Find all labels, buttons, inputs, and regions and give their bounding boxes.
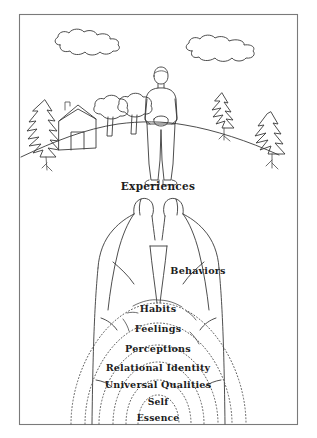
iceberg-layers-illustration: Experiences Behaviors Habits Feelings Pe… [0, 0, 317, 438]
label-feelings: Feelings [135, 323, 181, 334]
label-experiences: Experiences [121, 180, 195, 192]
label-habits: Habits [140, 303, 177, 314]
label-universal-qualities: Universal Qualities [105, 379, 212, 390]
label-self: Self [148, 396, 170, 407]
label-essence: Essence [137, 412, 180, 423]
label-relational-identity: Relational Identity [106, 362, 211, 373]
label-perceptions: Perceptions [125, 343, 191, 354]
illustration-canvas: Experiences Behaviors Habits Feelings Pe… [0, 0, 317, 438]
label-behaviors: Behaviors [170, 265, 225, 276]
